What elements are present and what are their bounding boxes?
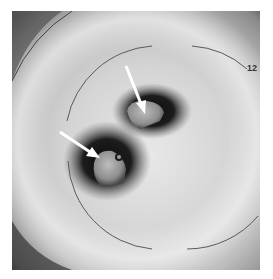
scan-graphic — [12, 11, 260, 270]
radial-scan-image: 12 — [12, 11, 260, 270]
depth-label: 12 — [247, 63, 257, 73]
